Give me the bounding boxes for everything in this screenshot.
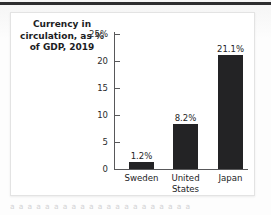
- bar-value-sweden: 1.2%: [131, 151, 153, 161]
- y-axis-tick-label: 0: [103, 164, 108, 174]
- bar-value-united-states: 8.2%: [175, 113, 197, 123]
- x-axis-label-united-states: United States: [164, 173, 208, 194]
- page-top-rule: [0, 2, 271, 5]
- y-axis-tick-label: 10: [97, 110, 108, 120]
- bar-united-states: [173, 124, 198, 168]
- y-axis-tick: [114, 142, 120, 143]
- y-axis-tick: [114, 34, 120, 35]
- bar-sweden: [129, 162, 154, 168]
- page-root: Currency in circulation, as % of GDP, 20…: [0, 0, 271, 215]
- bar-value-japan: 21.1%: [217, 44, 244, 54]
- x-axis-label-sweden: Sweden: [116, 173, 168, 184]
- y-axis-line: [114, 32, 115, 170]
- bar-japan: [218, 55, 243, 169]
- y-axis-tick: [114, 61, 120, 62]
- y-axis-tick-label: 15: [97, 83, 108, 93]
- y-axis-tick-label: 25%: [89, 29, 108, 39]
- y-axis-tick: [114, 115, 120, 116]
- bar-chart-plot: 25% 20 15 10 5 0 1.2% 8.2% 21.1% Sweden …: [11, 13, 256, 197]
- page-body-undertext: a a a a a a a a a a a a a a a a a a a a …: [10, 202, 265, 214]
- x-axis-label-japan: Japan: [209, 173, 253, 184]
- y-axis-tick: [114, 88, 120, 89]
- y-axis-tick-label: 20: [97, 56, 108, 66]
- x-axis-line: [114, 169, 248, 170]
- figure-card: Currency in circulation, as % of GDP, 20…: [10, 12, 255, 196]
- y-axis-tick-label: 5: [103, 137, 108, 147]
- y-axis-tick: [114, 169, 120, 170]
